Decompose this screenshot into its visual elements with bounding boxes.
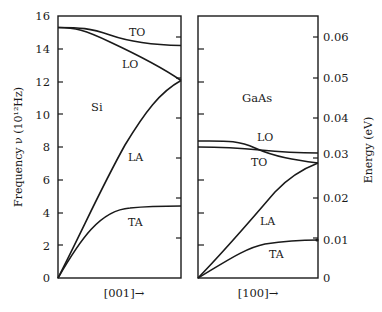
si-to-branch xyxy=(58,28,181,46)
tick-label: 12 xyxy=(35,75,50,89)
si-panel: TO LO Si LA TA [001]→ xyxy=(58,16,181,300)
y-axis-right-ticks: 0.06 0.05 0.04 0.03 0.02 0.01 0 xyxy=(323,30,349,285)
gaas-panel: GaAs LO TO LA TA [100]→ xyxy=(198,16,319,300)
gaas-ta-label: TA xyxy=(269,248,285,261)
tick-label: 0.06 xyxy=(323,30,349,44)
y-axis-left-title: Frequency ν (10¹²Hz) xyxy=(12,87,25,207)
si-left-ticks xyxy=(58,49,63,245)
tick-label: 0.04 xyxy=(323,111,349,125)
tick-label: 2 xyxy=(43,239,50,253)
tick-label: 4 xyxy=(43,206,50,220)
tick-label: 16 xyxy=(35,9,50,23)
tick-label: 0.03 xyxy=(323,147,349,161)
gaas-right-ticks xyxy=(313,37,318,238)
si-plot-frame xyxy=(58,16,181,278)
tick-label: 14 xyxy=(35,42,50,56)
si-lo-label: LO xyxy=(122,58,138,71)
gaas-to-label: TO xyxy=(251,156,267,169)
si-lo-branch xyxy=(58,28,181,81)
tick-label: 0 xyxy=(323,271,330,285)
gaas-panel-label: GaAs xyxy=(242,91,272,105)
phonon-dispersion-figure: Frequency ν (10¹²Hz) 16 14 12 10 8 6 4 2… xyxy=(0,0,382,312)
si-to-label: TO xyxy=(129,26,145,39)
gaas-ta-endpoint xyxy=(315,238,318,241)
tick-label: 0.02 xyxy=(323,191,349,205)
gaas-to-branch xyxy=(198,147,318,153)
y-axis-right-title: Energy (eV) xyxy=(362,117,375,184)
y-axis-left-ticks: 16 14 12 10 8 6 4 2 0 xyxy=(35,9,50,285)
gaas-la-branch xyxy=(198,163,318,278)
tick-label: 0 xyxy=(43,271,50,285)
tick-label: 8 xyxy=(43,140,50,154)
si-ta-label: TA xyxy=(128,216,144,229)
si-la-label: LA xyxy=(128,151,144,164)
si-right-ticks xyxy=(176,37,181,238)
si-x-axis-label: [001]→ xyxy=(104,286,145,300)
tick-label: 6 xyxy=(43,173,50,187)
gaas-lo-label: LO xyxy=(257,131,273,144)
gaas-la-label: LA xyxy=(260,215,276,228)
tick-label: 0.05 xyxy=(323,71,349,85)
gaas-x-axis-label: [100]→ xyxy=(238,286,279,300)
tick-label: 10 xyxy=(35,108,50,122)
si-panel-label: Si xyxy=(91,100,103,114)
tick-label: 0.01 xyxy=(323,233,349,247)
